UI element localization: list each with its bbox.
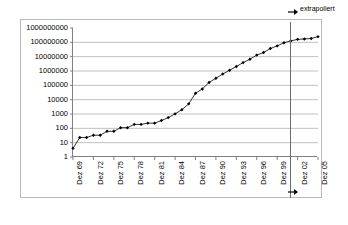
y-axis-label: 1 bbox=[64, 153, 68, 161]
data-point-marker bbox=[309, 37, 312, 40]
data-point-marker bbox=[133, 123, 136, 126]
x-axis-label: Dez 78 bbox=[137, 161, 145, 185]
chart-container: Dez 69Dez 72Dez 75Dez 78Dez 81Dez 84Dez … bbox=[0, 0, 348, 225]
data-point-marker bbox=[303, 37, 306, 40]
data-point-marker bbox=[262, 51, 265, 54]
y-axis-label: 1000000 bbox=[39, 67, 68, 75]
x-axis-label: Dez 90 bbox=[219, 161, 227, 185]
x-axis-label: Dez 69 bbox=[76, 161, 84, 185]
data-point-marker bbox=[126, 126, 129, 129]
data-point-marker bbox=[119, 126, 122, 129]
data-point-marker bbox=[85, 136, 88, 139]
extrapolation-arrow-bottom-icon bbox=[288, 188, 298, 196]
x-axis-label: Dez 72 bbox=[97, 161, 105, 185]
data-point-marker bbox=[92, 134, 95, 137]
extrapolation-divider-line bbox=[290, 22, 291, 198]
x-axis-label: Dez 81 bbox=[158, 161, 166, 185]
x-axis-label: Dez 05 bbox=[321, 161, 329, 185]
data-point-marker bbox=[112, 130, 115, 133]
x-axis-label: Dez 02 bbox=[301, 161, 309, 185]
data-point-marker bbox=[282, 41, 285, 44]
data-point-marker bbox=[153, 121, 156, 124]
data-point-marker bbox=[99, 134, 102, 137]
x-axis-label: Dez 75 bbox=[117, 161, 125, 185]
y-axis-label: 1000000000 bbox=[26, 24, 68, 32]
y-axis-label: 10000000 bbox=[35, 53, 68, 61]
data-point-marker bbox=[160, 119, 163, 122]
y-axis-label: 10000 bbox=[47, 96, 68, 104]
data-point-marker bbox=[241, 61, 244, 64]
y-axis-label: 100000 bbox=[43, 82, 68, 90]
y-axis-label: 100000000 bbox=[30, 39, 68, 47]
data-point-marker bbox=[167, 116, 170, 119]
data-point-marker bbox=[275, 44, 278, 47]
y-axis-label: 100 bbox=[55, 125, 68, 133]
x-axis-label: Dez 84 bbox=[178, 161, 186, 185]
chart-plot-svg bbox=[73, 28, 318, 157]
x-axis-label: Dez 93 bbox=[240, 161, 248, 185]
y-axis-label: 10 bbox=[60, 139, 68, 147]
data-point-marker bbox=[139, 123, 142, 126]
extrapolation-annotation-label: extrapoliert bbox=[300, 5, 335, 12]
x-axis-label: Dez 96 bbox=[260, 161, 268, 185]
extrapolation-arrow-top-icon bbox=[288, 8, 298, 16]
data-point-marker bbox=[296, 38, 299, 41]
x-axis-label: Dez 99 bbox=[280, 161, 288, 185]
y-axis-label: 1000 bbox=[51, 110, 68, 118]
data-point-marker bbox=[146, 121, 149, 124]
data-point-marker bbox=[105, 130, 108, 133]
data-point-marker bbox=[235, 65, 238, 68]
plot-area: Dez 69Dez 72Dez 75Dez 78Dez 81Dez 84Dez … bbox=[72, 28, 317, 157]
x-axis-label: Dez 87 bbox=[199, 161, 207, 185]
data-point-marker bbox=[269, 47, 272, 50]
